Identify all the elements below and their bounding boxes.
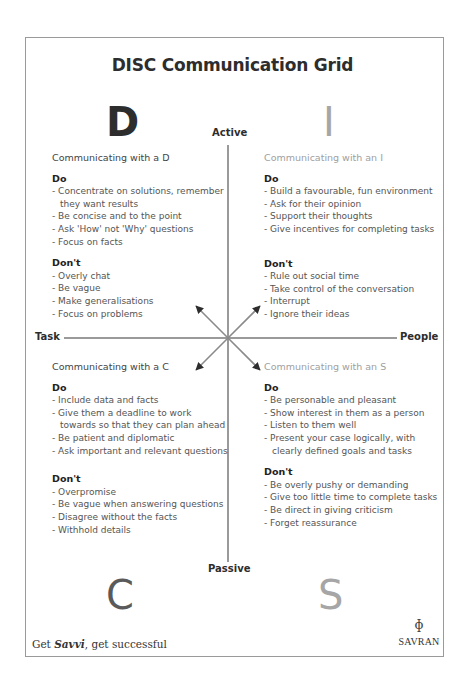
- list-item: Ask for their opinion: [264, 198, 442, 211]
- list-item: Focus on facts: [52, 236, 230, 249]
- letter-i: I: [323, 102, 335, 142]
- list-item: Be concise and to the point: [52, 210, 230, 223]
- do-list: Build a favourable, fun environment Ask …: [264, 185, 442, 235]
- letter-c: C: [106, 575, 134, 615]
- quadrant-heading: Communicating with a C: [52, 361, 230, 374]
- page-title: DISC Communication Grid: [0, 55, 465, 75]
- quadrant-heading: Communicating with an S: [264, 361, 442, 374]
- list-item: Withhold details: [52, 524, 230, 537]
- axis-label-passive: Passive: [208, 563, 250, 574]
- tagline-prefix: Get: [32, 638, 54, 650]
- list-item: Be direct in giving criticism: [264, 504, 442, 517]
- do-label: Do: [52, 173, 230, 186]
- list-item: Show interest in them as a person: [264, 407, 442, 420]
- list-item: Listen to them well: [264, 419, 442, 432]
- list-item: Ask 'How' not 'Why' questions: [52, 223, 230, 236]
- list-item: Be overly pushy or demanding: [264, 479, 442, 492]
- axis-label-task: Task: [35, 331, 60, 342]
- do-list: Be personable and pleasant Show interest…: [264, 394, 442, 457]
- list-item: Give incentives for completing tasks: [264, 223, 442, 236]
- quadrant-heading: Communicating with a D: [52, 152, 230, 165]
- axis-label-people: People: [400, 331, 438, 342]
- list-item: Take control of the conversation: [264, 283, 442, 296]
- do-label: Do: [52, 382, 230, 395]
- list-item: Focus on problems: [52, 308, 230, 321]
- list-item: Interrupt: [264, 295, 442, 308]
- list-item: Disagree without the facts: [52, 511, 230, 524]
- list-item: Ignore their ideas: [264, 308, 442, 321]
- list-item: Give too little time to complete tasks: [264, 491, 442, 504]
- letter-d: D: [106, 102, 139, 142]
- tagline-brand: Savvi: [54, 638, 85, 650]
- quadrant-i: Communicating with an I Do Build a favou…: [264, 152, 442, 321]
- tagline: Get Savvi, get successful: [32, 638, 167, 650]
- dont-list: Overly chat Be vague Make generalisation…: [52, 270, 230, 320]
- list-item: Rule out social time: [264, 270, 442, 283]
- dont-label: Don't: [264, 466, 442, 479]
- list-item: Be vague when answering questions: [52, 498, 230, 511]
- dont-list: Overpromise Be vague when answering ques…: [52, 486, 230, 536]
- list-item: Support their thoughts: [264, 210, 442, 223]
- do-list: Concentrate on solutions, remember they …: [52, 185, 230, 248]
- list-item: Be patient and diplomatic: [52, 432, 230, 445]
- dont-label: Don't: [52, 257, 230, 270]
- brand-logo: ɸ SAVRAN: [398, 618, 440, 647]
- quadrant-c: Communicating with a C Do Include data a…: [52, 361, 230, 536]
- list-item: Forget reassurance: [264, 517, 442, 530]
- tagline-suffix: , get successful: [85, 638, 167, 650]
- do-label: Do: [264, 173, 442, 186]
- do-label: Do: [264, 382, 442, 395]
- brand-name: SAVRAN: [398, 636, 440, 647]
- list-item: Concentrate on solutions, remember they …: [52, 185, 230, 210]
- list-item: Build a favourable, fun environment: [264, 185, 442, 198]
- dont-list: Be overly pushy or demanding Give too li…: [264, 479, 442, 529]
- do-list: Include data and facts Give them a deadl…: [52, 394, 230, 457]
- list-item: Be vague: [52, 282, 230, 295]
- axis-label-active: Active: [212, 127, 247, 138]
- list-item: Overly chat: [52, 270, 230, 283]
- dont-label: Don't: [52, 473, 230, 486]
- dont-list: Rule out social time Take control of the…: [264, 270, 442, 320]
- list-item: Include data and facts: [52, 394, 230, 407]
- list-item: Present your case logically, with clearl…: [264, 432, 442, 457]
- list-item: Ask important and relevant questions: [52, 445, 230, 458]
- quadrant-d: Communicating with a D Do Concentrate on…: [52, 152, 230, 320]
- dont-label: Don't: [264, 258, 442, 271]
- list-item: Give them a deadline to work towards so …: [52, 407, 230, 432]
- letter-s: S: [318, 575, 343, 615]
- list-item: Make generalisations: [52, 295, 230, 308]
- list-item: Be personable and pleasant: [264, 394, 442, 407]
- quadrant-heading: Communicating with an I: [264, 152, 442, 165]
- list-item: Overpromise: [52, 486, 230, 499]
- brand-mark-icon: ɸ: [398, 618, 440, 632]
- quadrant-s: Communicating with an S Do Be personable…: [264, 361, 442, 529]
